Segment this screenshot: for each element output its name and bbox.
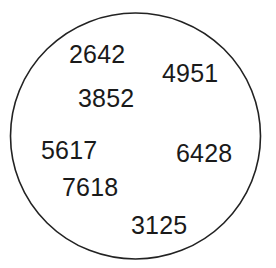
number-label-1: 2642 (69, 42, 125, 67)
number-label-3: 3852 (78, 86, 134, 111)
number-label-4: 5617 (41, 138, 97, 163)
number-label-2: 4951 (162, 61, 218, 86)
number-label-6: 7618 (62, 175, 118, 200)
figure-canvas: 2642 4951 3852 5617 6428 7618 3125 (0, 0, 276, 268)
number-label-5: 6428 (176, 141, 232, 166)
number-label-7: 3125 (131, 213, 187, 238)
